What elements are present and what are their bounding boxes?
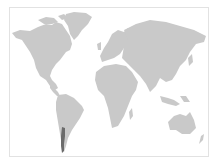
region-southeast-asia[interactable]: [160, 96, 190, 106]
region-arctic-islands[interactable]: [38, 14, 68, 24]
region-uk[interactable]: [97, 42, 101, 50]
world-map: [0, 0, 216, 161]
region-south-america[interactable]: [56, 94, 84, 152]
region-north-america[interactable]: [12, 22, 72, 90]
region-japan[interactable]: [188, 54, 193, 66]
region-australia[interactable]: [168, 112, 196, 134]
region-new-zealand[interactable]: [199, 134, 204, 144]
region-madagascar[interactable]: [129, 108, 133, 120]
region-africa[interactable]: [95, 64, 138, 128]
